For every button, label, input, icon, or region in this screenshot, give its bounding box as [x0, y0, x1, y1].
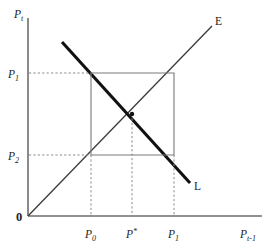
y-axis-label: Pt [13, 8, 24, 23]
cobweb-diagram-figure: Pt Pt-1 0 P1 P2 P0 P* P1 E L [0, 0, 277, 248]
y-tick-p1-text: P [7, 68, 15, 80]
y-tick-p2-text: P [7, 150, 15, 162]
x-axis-label-text: P [239, 228, 247, 240]
projection-lines-group [29, 73, 174, 215]
y-axis-label-sub: t [21, 14, 24, 23]
e-line-path [28, 26, 212, 216]
origin-label: 0 [16, 210, 22, 224]
x-axis-label-sub: t-1 [247, 234, 256, 243]
x-tick-p0-sub: 0 [92, 234, 96, 243]
y-tick-p2-sub: 2 [15, 156, 19, 165]
axes-group [28, 18, 262, 216]
y-tick-p1-sub: 1 [15, 74, 19, 83]
curve-label-e: E [215, 15, 222, 27]
equilibrium-line-e [28, 26, 212, 216]
x-tick-p1-text: P [167, 228, 175, 240]
x-tick-pstar-text: P [125, 228, 133, 240]
y-tick-label-p1: P1 [7, 68, 19, 83]
curve-label-l: L [194, 180, 201, 192]
y-axis-label-text: P [13, 8, 21, 20]
x-tick-pstar-sub: * [133, 227, 137, 236]
x-tick-p0-text: P [84, 228, 92, 240]
x-tick-p1-sub: 1 [175, 234, 179, 243]
y-tick-label-p2: P2 [7, 150, 19, 165]
x-tick-label-p1: P1 [167, 228, 179, 243]
equilibrium-point-dot [130, 112, 134, 116]
x-axis-label: Pt-1 [239, 228, 256, 243]
x-tick-label-p0: P0 [84, 228, 96, 243]
x-tick-label-pstar: P* [125, 227, 137, 240]
cobweb-chart-canvas: Pt Pt-1 0 P1 P2 P0 P* P1 E L [0, 0, 277, 248]
